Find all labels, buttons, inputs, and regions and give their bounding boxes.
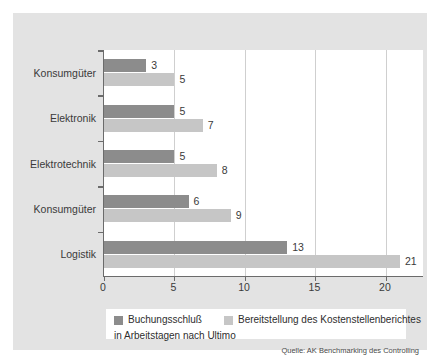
chart-legend: Buchungsschluß Bereitstellung des Kosten… <box>106 309 406 339</box>
bar-series-0-category-4 <box>104 241 287 254</box>
bar-value-label-series-0-category-4: 13 <box>292 241 304 254</box>
bar-value-label-series-0-category-3: 6 <box>194 195 200 208</box>
bar-series-1-category-0 <box>104 73 174 86</box>
legend-swatch-icon-series-1 <box>224 316 233 325</box>
x-tick-label-0: 0 <box>100 281 106 293</box>
chart-figure: KonsumgüterElektronikElektrotechnikKonsu… <box>0 0 440 363</box>
y-axis-category-labels: KonsumgüterElektronikElektrotechnikKonsu… <box>13 50 96 277</box>
x-axis-tick-labels: 05101520 <box>103 281 423 297</box>
y-axis-label-0: Konsumgüter <box>34 67 96 79</box>
bar-series-0-category-2 <box>104 150 174 163</box>
y-axis-label-1: Elektronik <box>50 112 96 124</box>
x-tick-label-5: 5 <box>171 281 177 293</box>
bar-series-1-category-4 <box>104 255 400 268</box>
legend-entry-bereitstellung: Bereitstellung des Kostenstellenberichte… <box>224 314 421 326</box>
y-tick-3 <box>98 186 104 188</box>
gridline-x-15 <box>315 50 316 276</box>
legend-subtitle: in Arbeitstagen nach Ultimo <box>114 330 398 342</box>
x-tick-label-10: 10 <box>238 281 250 293</box>
y-tick-2 <box>98 141 104 143</box>
bar-series-0-category-3 <box>104 195 189 208</box>
bar-value-label-series-0-category-1: 5 <box>179 105 185 118</box>
legend-entry-buchungsschluss: Buchungsschluß <box>114 314 202 326</box>
bar-series-1-category-2 <box>104 164 217 177</box>
gridline-x-20 <box>386 50 387 276</box>
bar-value-label-series-0-category-2: 5 <box>179 150 185 163</box>
bar-value-label-series-1-category-3: 9 <box>236 209 242 222</box>
bar-series-1-category-3 <box>104 209 231 222</box>
bar-value-label-series-1-category-1: 7 <box>208 119 214 132</box>
y-axis-label-3: Konsumgüter <box>34 203 96 215</box>
bar-series-1-category-1 <box>104 119 203 132</box>
x-tick-label-20: 20 <box>379 281 391 293</box>
legend-label-series-1: Bereitstellung des Kostenstellenberichte… <box>238 314 421 326</box>
chart-panel: KonsumgüterElektronikElektrotechnikKonsu… <box>13 13 427 350</box>
bar-value-label-series-1-category-4: 21 <box>405 255 417 268</box>
y-tick-4 <box>98 232 104 234</box>
y-tick-top <box>98 50 104 52</box>
y-axis-label-4: Logistik <box>60 248 96 260</box>
x-tick-label-15: 15 <box>309 281 321 293</box>
bar-value-label-series-1-category-2: 8 <box>222 164 228 177</box>
bar-value-label-series-0-category-0: 3 <box>151 59 157 72</box>
y-tick-1 <box>98 95 104 97</box>
bar-series-0-category-1 <box>104 105 174 118</box>
legend-entries-row: Buchungsschluß Bereitstellung des Kosten… <box>114 314 398 327</box>
source-note: Quelle: AK Benchmarking des Controlling <box>281 346 419 355</box>
legend-swatch-icon-series-0 <box>114 316 123 325</box>
y-axis-label-2: Elektrotechnik <box>30 158 96 170</box>
bar-series-0-category-0 <box>104 59 146 72</box>
bar-value-label-series-1-category-0: 5 <box>179 73 185 86</box>
legend-label-series-0: Buchungsschluß <box>128 314 202 326</box>
plot-area: 355758691321 <box>103 50 423 277</box>
